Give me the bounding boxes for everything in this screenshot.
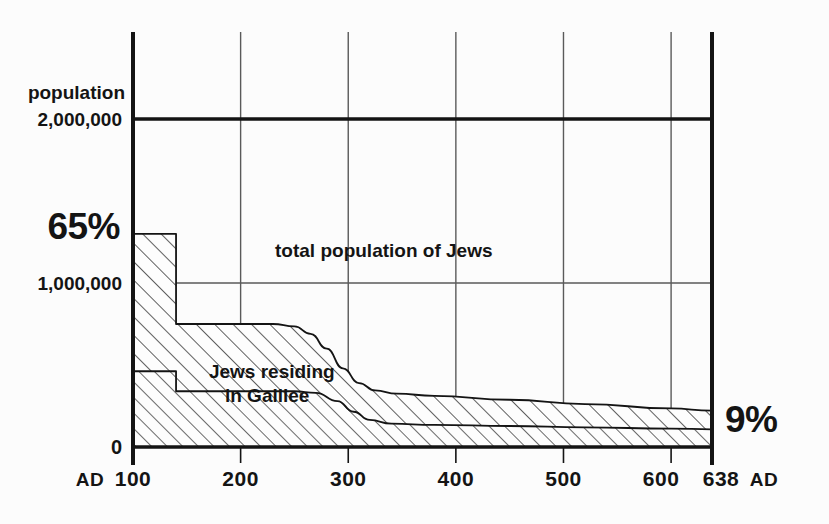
x-tick-label-500: 500 — [545, 467, 582, 490]
x-tick-label-200: 200 — [222, 467, 259, 490]
x-tick-label-600: 600 — [643, 467, 680, 490]
x-tick-label-100: 100 — [115, 467, 152, 490]
y-tick-label-0: 0 — [111, 436, 122, 458]
y-axis-caption: population — [28, 82, 125, 103]
x-tick-label-400: 400 — [438, 467, 475, 490]
y-tick-label-1000000: 1,000,000 — [37, 273, 122, 294]
series-label-galilee-line2: in Galilee — [225, 385, 309, 406]
x-tick-label-300: 300 — [330, 467, 367, 490]
annotation-start-share: 65% — [47, 206, 120, 247]
annotation-end-share: 9% — [725, 399, 777, 440]
y-tick-label-2000000: 2,000,000 — [37, 109, 122, 130]
series-label-total-population: total population of Jews — [275, 240, 492, 261]
x-axis-era-suffix: AD — [750, 469, 778, 490]
chart-canvas: 100200300400500600638ADADpopulation01,00… — [0, 0, 829, 524]
x-tick-label-638: 638 — [703, 467, 740, 490]
axis-ticks — [133, 448, 712, 465]
population-chart-figure: 100200300400500600638ADADpopulation01,00… — [0, 0, 829, 524]
area-series-layer — [133, 234, 712, 447]
series-label-galilee-line1: Jews residing — [209, 361, 335, 382]
x-axis-era-prefix: AD — [76, 469, 104, 490]
